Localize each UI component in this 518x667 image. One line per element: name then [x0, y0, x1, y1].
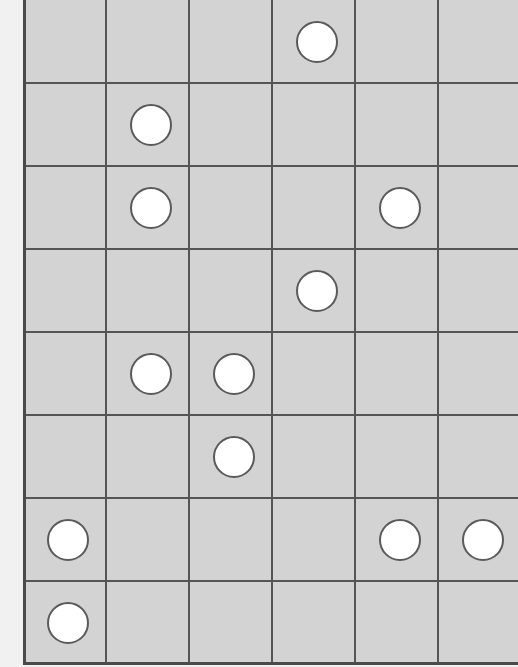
board-cell[interactable] — [275, 332, 358, 415]
board-cell[interactable] — [441, 83, 518, 166]
board-cell[interactable] — [26, 498, 109, 581]
white-stone-icon — [47, 519, 89, 561]
white-stone-icon — [213, 353, 255, 395]
grid-line-horizontal — [26, 165, 518, 167]
board-cell[interactable] — [109, 83, 192, 166]
white-stone-icon — [213, 436, 255, 478]
white-stone-icon — [130, 353, 172, 395]
board-cell[interactable] — [192, 83, 275, 166]
grid-line-horizontal — [26, 82, 518, 84]
board-cell[interactable] — [109, 415, 192, 498]
board-cell[interactable] — [26, 83, 109, 166]
board-cell[interactable] — [26, 249, 109, 332]
board-cell[interactable] — [441, 498, 518, 581]
board-cell[interactable] — [109, 332, 192, 415]
board-cell[interactable] — [358, 581, 441, 664]
board-cell[interactable] — [109, 249, 192, 332]
white-stone-icon — [130, 104, 172, 146]
board-cell[interactable] — [192, 166, 275, 249]
grid-line-horizontal — [26, 414, 518, 416]
white-stone-icon — [379, 519, 421, 561]
board-cell[interactable] — [358, 249, 441, 332]
board-cell[interactable] — [109, 0, 192, 83]
board-cell[interactable] — [275, 166, 358, 249]
board-cell[interactable] — [26, 166, 109, 249]
board-cell[interactable] — [441, 166, 518, 249]
board-cell[interactable] — [192, 249, 275, 332]
board-cell[interactable] — [441, 332, 518, 415]
board-cell[interactable] — [275, 0, 358, 83]
board-cell[interactable] — [26, 581, 109, 664]
grid-line-horizontal — [26, 580, 518, 582]
board-cell[interactable] — [109, 581, 192, 664]
board-cell[interactable] — [358, 0, 441, 83]
grid-line-horizontal — [26, 331, 518, 333]
board-cell[interactable] — [441, 0, 518, 83]
board-cell[interactable] — [192, 581, 275, 664]
board-cell[interactable] — [275, 249, 358, 332]
board-cell[interactable] — [275, 415, 358, 498]
white-stone-icon — [130, 187, 172, 229]
white-stone-icon — [296, 270, 338, 312]
board-cell[interactable] — [358, 83, 441, 166]
board-cell[interactable] — [275, 498, 358, 581]
grid-line-horizontal — [26, 497, 518, 499]
white-stone-icon — [379, 187, 421, 229]
board-cell[interactable] — [192, 415, 275, 498]
board-cell[interactable] — [26, 415, 109, 498]
board-cell[interactable] — [192, 0, 275, 83]
board-cell[interactable] — [109, 166, 192, 249]
board-cell[interactable] — [441, 249, 518, 332]
board-cell[interactable] — [109, 498, 192, 581]
board-cell[interactable] — [441, 415, 518, 498]
board-cell[interactable] — [441, 581, 518, 664]
white-stone-icon — [462, 519, 504, 561]
board-cell[interactable] — [192, 498, 275, 581]
grid-line-horizontal — [26, 248, 518, 250]
board-cell[interactable] — [26, 0, 109, 83]
board-cell[interactable] — [275, 581, 358, 664]
board-cell[interactable] — [358, 332, 441, 415]
board-cell[interactable] — [192, 332, 275, 415]
game-board — [23, 0, 518, 665]
board-cell[interactable] — [358, 498, 441, 581]
white-stone-icon — [47, 602, 89, 644]
board-cell[interactable] — [358, 166, 441, 249]
board-cell[interactable] — [26, 332, 109, 415]
board-cell[interactable] — [275, 83, 358, 166]
board-cell[interactable] — [358, 415, 441, 498]
white-stone-icon — [296, 21, 338, 63]
